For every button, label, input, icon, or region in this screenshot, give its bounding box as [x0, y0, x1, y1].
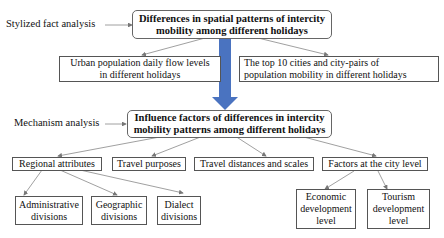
dialect-divisions-box: Dialect divisions: [157, 196, 201, 225]
spatial-differences-box: Differences in spatial patterns of inter…: [132, 10, 332, 39]
administrative-line2: divisions: [31, 211, 67, 223]
tourism-development-box: Tourism development level: [367, 189, 430, 229]
daily-flow-box: Urban population daily flow levels in di…: [59, 56, 221, 82]
factor-city-level: Factors at the city level: [322, 157, 428, 171]
geographic-divisions-box: Geographic divisions: [91, 196, 147, 225]
mechanism-analysis-label: Mechanism analysis: [14, 117, 99, 128]
dialect-line2: divisions: [161, 211, 197, 223]
factor-travel-purposes: Travel purposes: [112, 157, 186, 171]
tourism-line1: Tourism: [382, 191, 415, 203]
dialect-line1: Dialect: [165, 199, 194, 211]
top10-cities-box: The top 10 cities and city-pairs of popu…: [239, 56, 439, 82]
factor-regional-attributes: Regional attributes: [12, 157, 102, 171]
top10-cities-line2: population mobility in different holiday…: [244, 69, 407, 81]
economic-line2: development: [300, 203, 352, 215]
tourism-line3: level: [389, 215, 408, 227]
influence-factors-line1: Influence factors of differences in inte…: [134, 112, 324, 124]
daily-flow-line2: in different holidays: [100, 69, 181, 81]
administrative-divisions-box: Administrative divisions: [15, 196, 83, 225]
spatial-differences-line2: mobility among different holidays: [156, 25, 308, 37]
administrative-line1: Administrative: [19, 199, 79, 211]
daily-flow-line1: Urban population daily flow levels: [70, 57, 209, 69]
influence-factors-box: Influence factors of differences in inte…: [127, 110, 332, 138]
tourism-line2: development: [373, 203, 425, 215]
economic-line3: level: [316, 215, 335, 227]
influence-factors-line2: mobility patterns among different holida…: [134, 124, 326, 136]
geographic-line2: divisions: [101, 211, 137, 223]
economic-development-box: Economic development level: [296, 189, 356, 229]
geographic-line1: Geographic: [96, 199, 143, 211]
top10-cities-line1: The top 10 cities and city-pairs of: [244, 57, 379, 69]
spatial-differences-line1: Differences in spatial patterns of inter…: [139, 13, 325, 25]
economic-line1: Economic: [306, 191, 347, 203]
stylized-fact-label: Stylized fact analysis: [6, 18, 95, 29]
factor-travel-distances: Travel distances and scales: [194, 157, 314, 171]
